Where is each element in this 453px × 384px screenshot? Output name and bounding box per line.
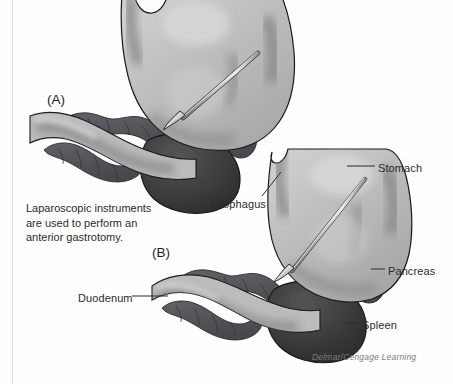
callout-label-esophagus: Esophagus bbox=[210, 197, 266, 212]
panel-label-b: (B) bbox=[152, 245, 170, 260]
callout-label-pancreas: Pancreas bbox=[388, 264, 435, 279]
panel-label-a: (A) bbox=[47, 92, 65, 107]
panel-a-illustration bbox=[30, 0, 294, 213]
callout-label-duodenum: Duodenum bbox=[78, 291, 133, 306]
callout-label-stomach: Stomach bbox=[378, 161, 422, 176]
anatomy-illustration-figure: (A) (B) Stomach Esophagus Pancreas Splee… bbox=[0, 0, 453, 384]
publisher-credit: Delmar/Cengage Learning bbox=[312, 352, 416, 362]
figure-caption: Laparoscopic instruments are used to per… bbox=[26, 201, 152, 245]
callout-label-spleen: Spleen bbox=[362, 318, 397, 333]
